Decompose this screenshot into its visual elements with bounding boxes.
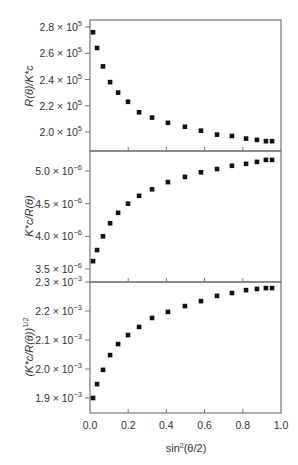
data-point bbox=[108, 80, 113, 85]
data-point bbox=[150, 115, 155, 120]
stacked-scatter-figure: 2.0 × 1052.2 × 1052.4 × 1052.6 × 1052.8 … bbox=[0, 0, 298, 465]
data-point bbox=[244, 136, 249, 141]
data-point bbox=[126, 100, 131, 105]
data-point bbox=[126, 201, 131, 206]
data-point bbox=[264, 139, 269, 144]
x-axis: 0.00.20.40.60.81.0 bbox=[83, 419, 289, 431]
y-tick-label: 2.0 × 10−3 bbox=[35, 361, 82, 375]
x-tick-label: 0.6 bbox=[197, 419, 212, 431]
y-tick-label: 4.5 × 10−6 bbox=[35, 196, 82, 210]
data-point bbox=[101, 234, 106, 239]
x-tick-label: 0.8 bbox=[235, 419, 250, 431]
data-point bbox=[137, 194, 142, 199]
data-point bbox=[116, 342, 121, 347]
data-point bbox=[166, 121, 171, 126]
data-point bbox=[230, 163, 235, 168]
y-tick-label: 2.6 × 105 bbox=[40, 45, 82, 59]
data-point bbox=[183, 304, 188, 309]
data-point bbox=[101, 64, 106, 69]
x-tick-label: 0.0 bbox=[83, 419, 98, 431]
panel-3: 1.9 × 10−32.0 × 10−32.1 × 10−32.2 × 10−3… bbox=[21, 274, 281, 413]
y-tick-label: 2.3 × 10−3 bbox=[35, 274, 82, 288]
data-point bbox=[264, 286, 269, 291]
data-point bbox=[126, 333, 131, 338]
data-point bbox=[95, 46, 100, 51]
y-tick-label: 2.2 × 105 bbox=[40, 98, 82, 112]
y-tick-label: 2.0 × 105 bbox=[40, 124, 82, 138]
y-tick-label: 5.0 × 10−6 bbox=[35, 163, 82, 177]
y-tick-label: 3.5 × 10−6 bbox=[35, 261, 82, 275]
panel-1: 2.0 × 1052.2 × 1052.4 × 1052.6 × 1052.8 … bbox=[23, 19, 281, 151]
y-tick-label: 1.9 × 10−3 bbox=[35, 390, 82, 404]
data-point bbox=[230, 291, 235, 296]
chart-canvas: 2.0 × 1052.2 × 1052.4 × 1052.6 × 1052.8 … bbox=[0, 0, 298, 465]
data-point bbox=[244, 162, 249, 167]
data-point bbox=[230, 134, 235, 139]
data-point bbox=[166, 310, 171, 315]
data-point bbox=[270, 286, 275, 291]
data-point bbox=[183, 175, 188, 180]
data-point bbox=[270, 139, 275, 144]
data-point bbox=[116, 211, 121, 216]
y-tick-label: 2.2 × 10−3 bbox=[35, 303, 82, 317]
data-point bbox=[150, 316, 155, 321]
data-point bbox=[215, 294, 220, 299]
data-point bbox=[244, 288, 249, 293]
data-point bbox=[199, 299, 204, 304]
y-tick-label: 2.1 × 10−3 bbox=[35, 332, 82, 346]
data-point bbox=[91, 259, 96, 264]
data-point bbox=[215, 132, 220, 137]
data-point bbox=[137, 110, 142, 115]
data-point bbox=[199, 128, 204, 133]
x-tick-label: 0.4 bbox=[159, 419, 174, 431]
data-point bbox=[91, 396, 96, 401]
data-point bbox=[183, 124, 188, 129]
data-point bbox=[255, 138, 260, 143]
data-point bbox=[95, 248, 100, 253]
y-tick-label: 2.4 × 105 bbox=[40, 72, 82, 86]
panel-frame bbox=[90, 282, 281, 413]
panel-frame bbox=[90, 20, 281, 151]
data-point bbox=[255, 287, 260, 292]
data-point bbox=[91, 30, 96, 35]
y-axis-label: (K*c/R(θ))1/2 bbox=[21, 317, 35, 376]
panel-frame bbox=[90, 151, 281, 282]
panels: 2.0 × 1052.2 × 1052.4 × 1052.6 × 1052.8 … bbox=[21, 19, 281, 413]
data-point bbox=[150, 187, 155, 192]
y-axis-label: R(θ)/K*c bbox=[23, 65, 35, 107]
data-point bbox=[264, 158, 269, 163]
data-point bbox=[95, 382, 100, 387]
data-point bbox=[270, 158, 275, 163]
y-tick-label: 2.8 × 105 bbox=[40, 19, 82, 33]
data-point bbox=[255, 160, 260, 165]
data-point bbox=[199, 170, 204, 175]
x-axis-label: sin2(θ/2) bbox=[166, 442, 207, 454]
data-point bbox=[101, 368, 106, 373]
x-tick-label: 0.2 bbox=[121, 419, 136, 431]
y-axis-label: K*c/R(θ) bbox=[23, 195, 35, 237]
data-point bbox=[166, 180, 171, 185]
data-point bbox=[108, 353, 113, 358]
x-tick-label: 1.0 bbox=[274, 419, 289, 431]
data-point bbox=[137, 325, 142, 330]
y-tick-label: 4.0 × 10−6 bbox=[35, 228, 82, 242]
data-point bbox=[116, 90, 121, 95]
panel-2: 3.5 × 10−64.0 × 10−64.5 × 10−65.0 × 10−6… bbox=[23, 151, 281, 282]
data-point bbox=[108, 221, 113, 226]
data-point bbox=[215, 167, 220, 172]
